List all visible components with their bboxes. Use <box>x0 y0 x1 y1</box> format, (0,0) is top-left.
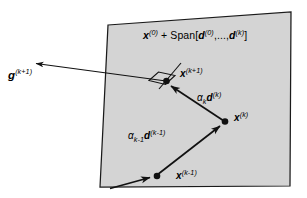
plane-label-ellipsis: ,..., <box>214 29 229 41</box>
point-label-x-k-sup: (k) <box>240 110 249 119</box>
plane-label-bracket-close: ] <box>244 29 247 41</box>
step-label-k-minus-1-sup: (k-1) <box>150 128 165 137</box>
step-label-k: αkd(k) <box>197 93 221 103</box>
plane-label: x(0) + Span[d(0),...,d(k)] <box>143 30 247 41</box>
plane-label-d0-sup: (0) <box>205 28 214 37</box>
plane-label-x-sup: (0) <box>149 28 158 37</box>
point-label-x-k: x(k) <box>234 113 248 123</box>
point-label-x-k-minus-1-sup: (k-1) <box>182 168 197 177</box>
point-label-x-k-minus-1: x(k-1) <box>176 171 197 181</box>
conjugate-direction-diagram: x(0) + Span[d(0),...,d(k)] g(k+1) x(k+1)… <box>0 0 307 198</box>
point-x-k <box>222 118 229 125</box>
gradient-label: g(k+1) <box>8 70 32 82</box>
step-label-k-minus-1-sub: k-1 <box>134 135 144 144</box>
point-x-k-minus-1 <box>154 173 161 180</box>
point-label-x-k-plus-1: x(k+1) <box>180 69 203 79</box>
point-label-x-k-plus-1-sup: (k+1) <box>186 66 203 75</box>
step-label-k-minus-1: αk-1d(k-1) <box>128 131 166 141</box>
plane-label-plus-span: + Span[ <box>158 29 198 41</box>
plane-label-dk-sup: (k) <box>235 28 244 37</box>
gradient-label-sup: (k+1) <box>15 67 32 76</box>
step-label-k-sup: (k) <box>213 90 222 99</box>
point-x-k-plus-1 <box>163 78 170 85</box>
